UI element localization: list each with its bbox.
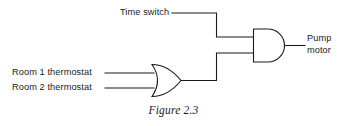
wire-time-switch-to-and-gate [172, 13, 253, 37]
figure-container: Time switch Room 1 thermostat Room 2 the… [0, 0, 347, 126]
and-gate-symbol [254, 29, 285, 62]
output-label-pump-motor-line-2: motor [307, 45, 331, 56]
input-label-time-switch: Time switch [120, 7, 169, 18]
figure-caption: Figure 2.3 [0, 104, 347, 116]
input-label-room-2-thermostat: Room 2 thermostat [12, 82, 92, 93]
input-label-room-1-thermostat: Room 1 thermostat [12, 67, 92, 78]
or-gate-symbol [152, 65, 181, 97]
wire-or-gate-to-and-gate [181, 53, 253, 81]
output-label-pump-motor-line-1: Pump [307, 33, 331, 44]
